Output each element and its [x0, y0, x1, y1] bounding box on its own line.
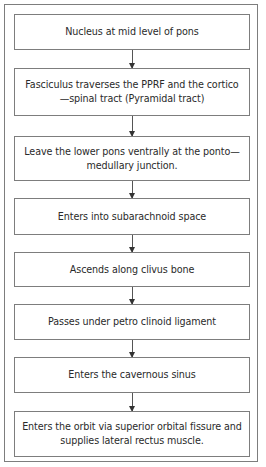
step-3-label: Leave the lower pons ventrally at the po…: [21, 145, 243, 173]
step-1-box: Nucleus at mid level of pons: [14, 14, 250, 50]
step-7-label: Enters the cavernous sinus: [68, 368, 195, 382]
step-8-label: Enters the orbit via superior orbital fi…: [21, 420, 243, 448]
arrow-down-icon: [132, 393, 133, 411]
arrow-down-icon: [132, 116, 133, 136]
step-3-box: Leave the lower pons ventrally at the po…: [14, 136, 250, 181]
step-2-label: Fasciculus traverses the PPRF and the co…: [21, 78, 243, 106]
step-7-box: Enters the cavernous sinus: [14, 357, 250, 393]
step-8-box: Enters the orbit via superior orbital fi…: [14, 411, 250, 457]
step-2-box: Fasciculus traverses the PPRF and the co…: [14, 68, 250, 116]
step-4-label: Enters into subarachnoid space: [58, 210, 206, 224]
arrow-down-icon: [132, 340, 133, 357]
arrow-down-icon: [132, 235, 133, 252]
arrow-down-icon: [132, 50, 133, 68]
step-4-box: Enters into subarachnoid space: [14, 198, 250, 235]
arrow-down-icon: [132, 181, 133, 198]
arrow-down-icon: [132, 287, 133, 304]
step-6-box: Passes under petro clinoid ligament: [14, 304, 250, 340]
step-5-box: Ascends along clivus bone: [14, 252, 250, 287]
step-6-label: Passes under petro clinoid ligament: [48, 315, 216, 329]
step-5-label: Ascends along clivus bone: [70, 263, 194, 277]
step-1-label: Nucleus at mid level of pons: [65, 25, 198, 39]
